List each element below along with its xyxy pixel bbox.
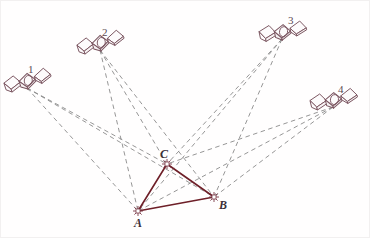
triangle-edge [138,197,214,211]
observation-links-layer [27,39,333,211]
satellite-icon [258,18,308,44]
satellites-layer [3,18,359,113]
ground-station-marker-icon [133,206,143,216]
satellite-label-2: 2 [102,27,108,38]
ground-point-label-c: C [160,148,168,160]
observation-link [167,107,333,164]
satellite-label-3: 3 [288,15,294,26]
observation-link [27,88,214,197]
observation-link [27,88,167,164]
observation-link [214,107,333,197]
triangle-edge [138,164,167,211]
ground-markers-layer [133,159,219,216]
ground-point-label-a: A [134,217,142,229]
observation-link [100,50,167,164]
satellite-network-figure: 1 2 3 4 A B C [0,0,370,238]
observation-link [138,39,282,211]
ground-point-label-b: B [219,199,227,211]
figure-canvas [1,1,370,238]
ground-triangle-layer [138,164,214,211]
observation-link [167,39,282,164]
satellite-label-4: 4 [338,84,344,95]
observation-link [27,88,138,211]
observation-link [214,39,282,197]
satellite-icon [309,85,359,113]
satellite-label-1: 1 [28,64,34,75]
ground-station-marker-icon [209,192,219,202]
